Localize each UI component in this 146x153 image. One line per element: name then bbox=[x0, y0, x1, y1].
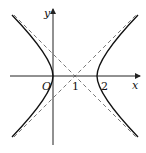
origin-label: O bbox=[42, 80, 51, 93]
tick-label-2: 2 bbox=[101, 80, 108, 93]
x-axis-label: x bbox=[132, 79, 139, 92]
hyperbola-diagram: y x O 1 2 bbox=[0, 0, 146, 153]
y-axis-label: y bbox=[43, 7, 51, 20]
tick-label-1: 1 bbox=[72, 80, 79, 93]
